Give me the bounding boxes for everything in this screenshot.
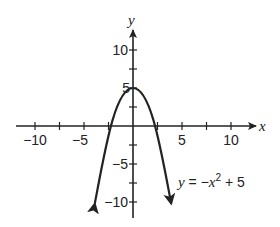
y-tick-label-10: 10 <box>112 42 128 58</box>
x-axis-label: x <box>258 118 266 134</box>
x-tick-label-10: 10 <box>223 132 239 148</box>
equation-y: y <box>176 174 185 190</box>
equation-rest: + 5 <box>221 174 245 190</box>
y-axis-label: y <box>126 12 135 28</box>
x-tick-label-neg5: −5 <box>72 132 88 148</box>
y-tick-label-neg10: −10 <box>104 194 128 210</box>
parabola-graph: −10 −5 5 10 10 5 −5 −10 x y y = −x2 + 5 <box>0 0 280 227</box>
equation-eq: = − <box>185 174 209 190</box>
graph-canvas: −10 −5 5 10 10 5 −5 −10 x y y = −x2 + 5 <box>0 0 280 227</box>
equation-label: y = −x2 + 5 <box>176 172 245 190</box>
x-tick-label-neg10: −10 <box>23 132 47 148</box>
y-tick-label-neg5: −5 <box>112 156 128 172</box>
x-tick-label-5: 5 <box>178 132 186 148</box>
